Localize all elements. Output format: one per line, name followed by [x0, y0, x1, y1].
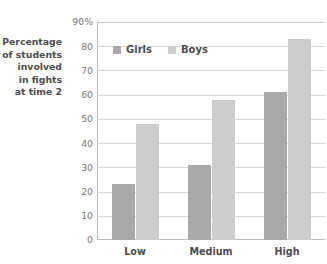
girls-swatch-icon	[113, 46, 121, 54]
y-tick-label: 70	[55, 66, 93, 75]
bar-girls-low	[112, 184, 135, 240]
y-axis-label-line-5: at time 2	[2, 86, 62, 99]
y-tick-label: 0	[55, 235, 93, 244]
x-tick-label: Medium	[173, 246, 249, 257]
y-tick-label: 80	[55, 42, 93, 51]
legend-label-girls: Girls	[126, 45, 152, 55]
x-tick-label: Low	[97, 246, 173, 257]
legend-label-boys: Boys	[181, 45, 208, 55]
bar-chart: Percentage of students involved in fight…	[0, 0, 327, 264]
legend-entry-girls: Girls	[113, 45, 152, 55]
bar-girls-high	[264, 92, 287, 240]
bar-boys-high	[288, 39, 311, 240]
y-tick-label: 90%	[55, 17, 93, 26]
bar-boys-low	[136, 124, 159, 240]
legend-entry-boys: Boys	[168, 45, 208, 55]
x-tick-label: High	[249, 246, 325, 257]
y-axis-label-line-4: in fights	[2, 74, 62, 87]
y-axis-label-line-3: involved	[2, 61, 62, 74]
bar-boys-medium	[212, 100, 235, 240]
y-tick-label: 50	[55, 114, 93, 123]
y-tick-label: 20	[55, 187, 93, 196]
gridline	[97, 22, 325, 23]
legend: Girls Boys	[113, 45, 208, 55]
y-tick-label: 40	[55, 139, 93, 148]
y-tick-label: 10	[55, 211, 93, 220]
y-axis-label-line-2: of students	[2, 49, 62, 62]
y-axis-label-line-1: Percentage	[2, 36, 62, 49]
y-tick-label: 30	[55, 163, 93, 172]
y-axis-ticks: 0102030405060708090%	[55, 0, 93, 264]
y-axis-label: Percentage of students involved in fight…	[2, 36, 62, 99]
y-tick-label: 60	[55, 90, 93, 99]
boys-swatch-icon	[168, 46, 176, 54]
bar-girls-medium	[188, 165, 211, 240]
